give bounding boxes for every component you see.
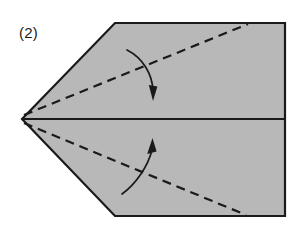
- origami-step-figure: (2): [0, 0, 297, 230]
- step-label: (2): [19, 24, 38, 41]
- origami-diagram: (2): [0, 0, 297, 230]
